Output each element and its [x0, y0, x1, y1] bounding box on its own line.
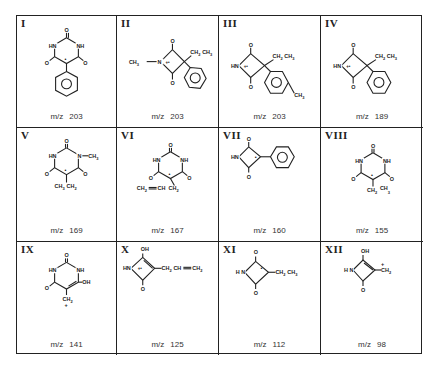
svg-text:CH: CH [55, 183, 63, 189]
svg-text:HN: HN [49, 267, 57, 273]
mass-to-charge: m/z203 [219, 112, 320, 121]
mz-value: 203 [170, 112, 183, 121]
mass-to-charge: m/z169 [17, 226, 116, 235]
svg-text:2: 2 [280, 56, 283, 61]
mass-to-charge: m/z125 [117, 340, 218, 349]
svg-text:2: 2 [198, 52, 201, 57]
svg-text:HN: HN [49, 153, 57, 159]
svg-text:O: O [351, 42, 355, 48]
svg-text:CH: CH [275, 269, 283, 275]
cell-XI: XI OO H N • CH2CH3 m/z112 [219, 242, 321, 355]
svg-text:CH: CH [67, 183, 75, 189]
mz-prefix: m/z [50, 340, 63, 349]
svg-text:NH: NH [76, 267, 84, 273]
svg-text:•: • [168, 171, 170, 177]
mz-value: 203 [272, 112, 285, 121]
svg-text:+•: +• [166, 60, 171, 65]
svg-text:2: 2 [74, 186, 77, 191]
svg-text:H N: H N [344, 267, 354, 273]
svg-text:2: 2 [70, 299, 73, 304]
structure-VIII: OOO HN NH • CH2CH3 [321, 128, 423, 241]
cell-IV: IV OO HN +• CH2CH3 m/z189 [321, 16, 423, 128]
svg-text:O: O [65, 138, 69, 144]
svg-text:OH: OH [141, 246, 149, 252]
svg-text:CH: CH [375, 53, 383, 59]
svg-text:3: 3 [137, 62, 140, 67]
svg-text:+•: +• [138, 266, 143, 271]
structure-II: OO N CH3 +• CH2CH3 [117, 16, 218, 127]
structure-I: OOO HN NH • [17, 16, 116, 127]
mz-value: 203 [69, 112, 82, 121]
svg-text:NH: NH [383, 158, 391, 164]
mz-value: 98 [377, 340, 386, 349]
structure-V: OOO HN N CH3 • CH3CH2 [17, 128, 116, 241]
mass-to-charge: m/z160 [219, 226, 320, 235]
svg-text:2: 2 [169, 268, 172, 273]
structure-IX: OOOH HN NH CH2 + [17, 242, 116, 355]
svg-text:+•: +• [346, 64, 351, 69]
svg-text:O: O [249, 84, 253, 90]
mz-prefix: m/z [358, 340, 371, 349]
svg-text:2: 2 [145, 188, 148, 193]
svg-text:O: O [83, 171, 87, 177]
svg-text:CH: CH [287, 269, 295, 275]
mz-prefix: m/z [356, 226, 369, 235]
mass-to-charge: m/z167 [117, 226, 218, 235]
structure-IV: OO HN +• CH2CH3 [321, 16, 423, 127]
svg-text:O: O [247, 136, 251, 142]
svg-text:O: O [65, 252, 69, 258]
svg-text:CH: CH [88, 153, 96, 159]
mz-value: 189 [375, 112, 388, 121]
mz-prefix: m/z [50, 226, 63, 235]
svg-text:N: N [158, 59, 162, 65]
svg-text:CH: CH [294, 92, 302, 98]
svg-text:CH: CH [190, 49, 198, 55]
mass-to-charge: m/z203 [17, 112, 116, 121]
svg-text:O: O [65, 27, 69, 33]
svg-text:CH: CH [272, 53, 280, 59]
mz-prefix: m/z [254, 340, 267, 349]
svg-text:NH: NH [180, 157, 188, 163]
structure-XII: OHO H N + CH2 [321, 242, 423, 355]
mass-to-charge: m/z141 [17, 340, 116, 349]
structure-VI: OOO HN NH • CH2 CHCH2 [117, 128, 218, 241]
cell-IX: IX OOOH HN NH CH2 + m/z141 [17, 242, 117, 355]
mass-to-charge: m/z203 [117, 112, 218, 121]
svg-text:O: O [249, 42, 253, 48]
svg-text:O: O [141, 286, 145, 292]
svg-text:O: O [351, 84, 355, 90]
svg-text:CH: CH [162, 265, 170, 271]
svg-text:CH: CH [168, 185, 176, 191]
structure-VII: OO HN • [219, 128, 320, 241]
mz-value: 169 [69, 226, 82, 235]
svg-text:O: O [83, 60, 87, 66]
mass-to-charge: m/z98 [321, 340, 423, 349]
svg-text:O: O [168, 142, 172, 148]
svg-text:CH: CH [137, 185, 145, 191]
svg-text:OH: OH [82, 279, 90, 285]
svg-text:O: O [170, 38, 174, 44]
svg-text:HN: HN [333, 63, 341, 69]
cell-XII: XII OHO H N + CH2 m/z98 [321, 242, 423, 355]
svg-text:O: O [45, 285, 49, 291]
mz-prefix: m/z [151, 112, 164, 121]
mz-value: 160 [272, 226, 285, 235]
mz-prefix: m/z [253, 112, 266, 121]
svg-text:HN: HN [123, 265, 131, 271]
svg-text:2: 2 [383, 56, 386, 61]
svg-text:O: O [254, 290, 258, 296]
mass-to-charge: m/z112 [219, 340, 320, 349]
mass-to-charge: m/z189 [321, 112, 423, 121]
cell-X: X OHO HN +• CH2CH CH2 m/z125 [117, 242, 219, 355]
cell-VII: VII OO HN • m/z160 [219, 128, 321, 242]
svg-text:O: O [170, 80, 174, 86]
svg-text:CH: CH [129, 59, 137, 65]
svg-text:CH: CH [380, 185, 388, 191]
cell-V: V OOO HN N CH3 • CH3CH2 m/z169 [17, 128, 117, 242]
svg-text:2: 2 [283, 272, 286, 277]
svg-text:•: • [255, 154, 257, 160]
svg-text:H N: H N [236, 269, 245, 275]
svg-text:HN: HN [49, 43, 57, 49]
svg-text:O: O [351, 176, 355, 182]
svg-text:3: 3 [295, 272, 298, 277]
